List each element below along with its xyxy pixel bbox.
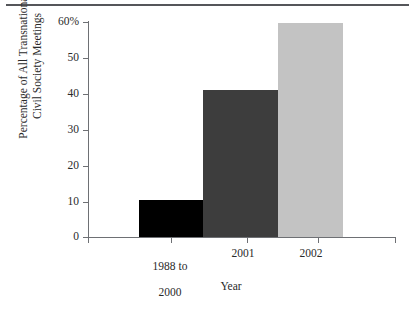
y-tick-label-20: 20: [68, 160, 80, 172]
y-axis-title: Percentage of All Transnational Civil So…: [16, 0, 44, 172]
x-axis-line: [88, 237, 396, 238]
y-tick-label-0: 0: [73, 231, 79, 243]
y-tick-label-50: 50: [68, 52, 80, 64]
x-tick-mark-2: [247, 238, 248, 243]
y-tick-label-30: 30: [68, 124, 80, 136]
x-tick-mark-end: [395, 238, 396, 243]
x-tick-mark-start: [88, 238, 89, 243]
x-tick-label-1-line1: 1988 to: [153, 260, 188, 272]
y-tick-label-40: 40: [68, 88, 80, 100]
x-tick-label-2001: 2001: [213, 247, 273, 260]
bar-1988-to-2000: [139, 200, 203, 237]
plot-area: [88, 22, 395, 237]
bar-2002: [278, 23, 343, 237]
bar-2001: [203, 90, 278, 237]
y-axis-title-line1: Percentage of All Transnational: [17, 0, 29, 139]
x-tick-mark-3: [318, 238, 319, 243]
x-axis-title: Year: [88, 280, 374, 293]
x-tick-label-2002: 2002: [281, 247, 341, 260]
y-tick-label-60: 60%: [58, 16, 79, 28]
y-tick-label-10: 10: [68, 196, 80, 208]
top-divider-rule: [6, 4, 409, 6]
bar-chart-figure: Percentage of All Transnational Civil So…: [0, 0, 415, 314]
y-axis-title-line2: Civil Society Meetings: [31, 13, 43, 119]
x-tick-mark-1: [171, 238, 172, 243]
